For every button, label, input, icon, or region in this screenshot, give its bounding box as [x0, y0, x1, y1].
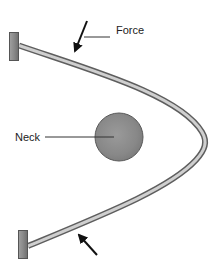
force-arrow-top-icon — [75, 21, 87, 51]
force-label: Force — [116, 24, 144, 36]
top-anchor-block — [10, 33, 19, 61]
force-diagram: Neck Force — [0, 0, 214, 273]
neck-label: Neck — [15, 131, 41, 143]
bottom-anchor-block — [19, 231, 28, 259]
force-arrow-bottom-icon — [79, 235, 97, 255]
